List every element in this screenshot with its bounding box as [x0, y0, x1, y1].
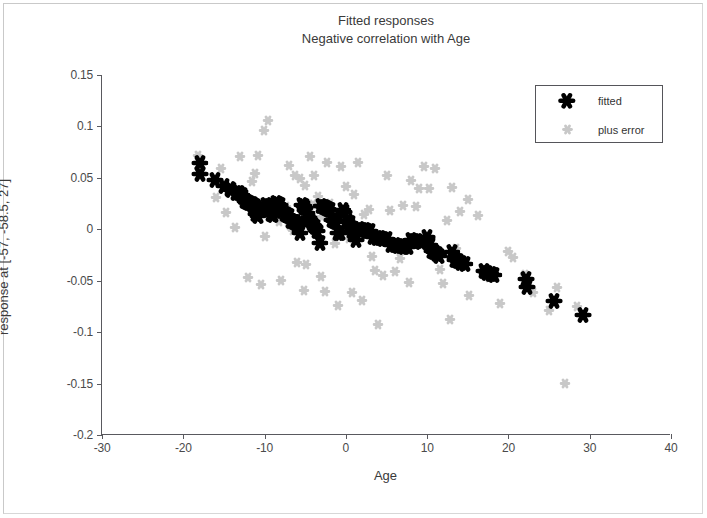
data-point-plus-error: [363, 201, 374, 219]
x-axis-tick: [508, 434, 509, 439]
legend-item-label: fitted: [598, 95, 622, 107]
data-point-plus-error: [316, 268, 327, 286]
y-axis-tick-label: 0.1: [77, 119, 93, 133]
x-axis-tick-label: -30: [94, 441, 111, 455]
y-axis-tick-label: -0.2: [73, 428, 93, 442]
x-axis-tick: [427, 434, 428, 439]
x-axis-tick-label: 20: [502, 441, 515, 455]
data-point-plus-error: [418, 158, 429, 176]
x-axis-tick-label: -20: [175, 441, 192, 455]
data-point-fitted: [311, 234, 329, 256]
y-axis-tick: [97, 384, 102, 385]
data-point-plus-error: [335, 158, 346, 176]
data-point-plus-error: [322, 154, 333, 172]
data-point-fitted: [545, 292, 563, 314]
x-axis-tick: [102, 434, 103, 439]
data-point-plus-error: [373, 316, 384, 334]
data-point-plus-error: [495, 295, 506, 313]
data-point-plus-error: [378, 267, 389, 285]
data-point-plus-error: [305, 148, 316, 166]
y-axis-tick: [97, 75, 102, 76]
y-axis-tick: [97, 332, 102, 333]
legend[interactable]: fittedplus error: [535, 85, 663, 143]
data-point-plus-error: [423, 180, 434, 198]
data-point-plus-error: [410, 198, 421, 216]
data-point-plus-error: [309, 167, 320, 185]
data-point-plus-error: [253, 147, 264, 165]
chart-title-line-1: Fitted responses: [101, 12, 671, 30]
data-point-plus-error: [292, 254, 303, 272]
y-axis-tick-label: -0.05: [67, 274, 93, 288]
data-point-fitted: [485, 266, 503, 288]
data-point-plus-error: [464, 287, 475, 305]
data-point-plus-error: [256, 276, 267, 294]
data-point-plus-error: [441, 212, 452, 230]
data-point-fitted: [518, 279, 536, 301]
data-point-plus-error: [243, 269, 254, 287]
data-point-plus-error: [230, 219, 241, 237]
data-point-plus-error: [298, 282, 309, 300]
legend-marker-icon: [536, 92, 598, 110]
screenshot-root: Fitted responses Negative correlation wi…: [0, 0, 707, 518]
data-point-plus-error: [438, 275, 449, 293]
data-point-plus-error: [560, 375, 571, 393]
data-point-plus-error: [444, 311, 455, 329]
x-axis-tick: [265, 434, 266, 439]
y-axis-tick-label: -0.15: [67, 377, 93, 391]
x-axis-tick-label: 0: [343, 441, 349, 455]
chart-title: Fitted responses Negative correlation wi…: [101, 12, 671, 48]
x-axis-tick-label: -10: [256, 441, 273, 455]
data-point-plus-error: [353, 154, 364, 172]
y-axis-tick: [97, 126, 102, 127]
data-point-fitted: [574, 306, 592, 328]
legend-item-label: plus error: [598, 124, 644, 136]
y-axis-tick-label: -0.1: [73, 325, 93, 339]
data-point-plus-error: [462, 191, 473, 209]
data-point-plus-error: [405, 172, 416, 190]
data-point-plus-error: [262, 112, 273, 130]
y-axis-tick-label: 0.05: [70, 171, 93, 185]
data-point-fitted: [456, 256, 474, 278]
data-point-plus-error: [397, 197, 408, 215]
x-axis-tick-label: 40: [665, 441, 678, 455]
x-axis-tick-label: 10: [421, 441, 434, 455]
legend-marker-icon: [536, 124, 598, 135]
data-point-plus-error: [503, 243, 514, 261]
data-point-plus-error: [275, 272, 286, 290]
x-axis-tick: [590, 434, 591, 439]
data-point-plus-error: [249, 165, 260, 183]
data-point-plus-error: [472, 207, 483, 225]
legend-item-plus-error[interactable]: plus error: [536, 115, 662, 144]
x-axis-tick-label: 30: [583, 441, 596, 455]
y-axis-tick: [97, 178, 102, 179]
data-point-plus-error: [332, 297, 343, 315]
x-axis-tick: [671, 434, 672, 439]
data-point-plus-error: [357, 292, 368, 310]
data-point-plus-error: [404, 274, 415, 292]
y-axis-label: response at [-57, -58.5, 27]: [0, 142, 11, 372]
y-axis-label-wrapper: response at [-57, -58.5, 27]: [0, 0, 11, 142]
data-point-plus-error: [235, 148, 246, 166]
data-point-plus-error: [446, 179, 457, 197]
y-axis-tick: [97, 229, 102, 230]
y-axis-tick-label: 0.15: [70, 68, 93, 82]
data-point-plus-error: [381, 167, 392, 185]
y-axis-tick: [97, 281, 102, 282]
x-axis-tick: [346, 434, 347, 439]
data-point-plus-error: [283, 157, 294, 175]
data-point-plus-error: [260, 228, 271, 246]
data-point-plus-error: [384, 202, 395, 220]
y-axis-tick-label: 0: [87, 222, 93, 236]
x-axis-tick: [183, 434, 184, 439]
x-axis-label: Age: [101, 468, 670, 483]
legend-item-fitted[interactable]: fitted: [536, 86, 662, 115]
data-point-plus-error: [430, 160, 441, 178]
data-point-plus-error: [319, 283, 330, 301]
chart-title-line-2: Negative correlation with Age: [101, 30, 671, 48]
